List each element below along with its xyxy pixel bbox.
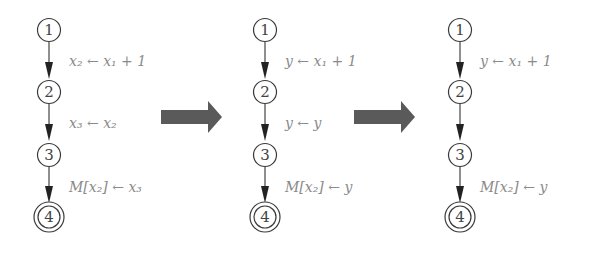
edge-3-4 xyxy=(45,167,53,203)
right-arrow-icon xyxy=(161,101,222,133)
node-3: 3 xyxy=(254,144,277,167)
edge-label-3-4: M[x₂] ← x₃ xyxy=(68,179,142,195)
svg-text:1: 1 xyxy=(260,21,270,39)
right-arrow-icon xyxy=(354,101,415,133)
edge-1-2 xyxy=(45,41,53,79)
edge-label-1-2: y ← x₁ + 1 xyxy=(284,53,357,69)
node-4-final: 4 xyxy=(34,202,64,232)
node-3: 3 xyxy=(449,144,472,167)
node-2: 2 xyxy=(254,81,277,104)
svg-text:1: 1 xyxy=(455,21,465,39)
cfg-transformation-diagram: 1 2 3 4 x₂ ← x₁ + 1 x₃ ← x₂ M[x₂] ← x₃ xyxy=(0,0,606,256)
node-4-final: 4 xyxy=(250,202,280,232)
edge-label-1-2: y ← x₁ + 1 xyxy=(479,53,552,69)
panel-original: 1 2 3 4 x₂ ← x₁ + 1 x₃ ← x₂ M[x₂] ← x₃ xyxy=(34,19,146,233)
svg-text:4: 4 xyxy=(455,208,465,226)
svg-text:2: 2 xyxy=(44,83,54,101)
node-1: 1 xyxy=(449,19,472,42)
svg-text:3: 3 xyxy=(44,146,54,164)
panel-simplified: 1 2 3 4 y ← x₁ + 1 M[x₂] ← y xyxy=(445,19,552,233)
edge-label-3-4: M[x₂] ← y xyxy=(284,179,353,195)
svg-text:2: 2 xyxy=(260,83,270,101)
node-1: 1 xyxy=(254,19,277,42)
edge-3-4 xyxy=(261,167,269,203)
edge-1-2 xyxy=(456,41,464,79)
edge-label-2-3: x₃ ← x₂ xyxy=(69,115,117,131)
node-1: 1 xyxy=(38,19,61,42)
svg-text:2: 2 xyxy=(455,83,465,101)
edge-3-4 xyxy=(456,167,464,203)
panel-renamed: 1 2 3 4 y ← x₁ + 1 y ← y M[x₂] ← y xyxy=(250,19,357,233)
edge-label-3-4: M[x₂] ← y xyxy=(479,179,548,195)
edge-2-3 xyxy=(45,104,53,141)
node-3: 3 xyxy=(38,144,61,167)
edge-1-2 xyxy=(261,41,269,79)
edge-label-2-3: y ← y xyxy=(284,115,323,131)
svg-text:1: 1 xyxy=(44,21,54,39)
edge-label-1-2: x₂ ← x₁ + 1 xyxy=(69,53,146,69)
svg-text:4: 4 xyxy=(44,208,54,226)
node-2: 2 xyxy=(449,81,472,104)
svg-text:4: 4 xyxy=(260,208,270,226)
svg-text:3: 3 xyxy=(455,146,465,164)
edge-2-3 xyxy=(261,104,269,141)
edge-2-3 xyxy=(456,104,464,141)
node-2: 2 xyxy=(38,81,61,104)
svg-text:3: 3 xyxy=(260,146,270,164)
node-4-final: 4 xyxy=(445,202,475,232)
